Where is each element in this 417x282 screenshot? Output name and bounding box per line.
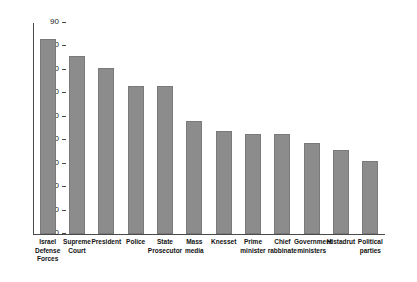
bar: [245, 134, 261, 234]
bar: [98, 68, 114, 234]
x-axis-label-line: parties: [353, 247, 388, 256]
x-axis-line: [33, 234, 385, 235]
x-axis-label-line: ministers: [294, 247, 329, 256]
x-axis-label-line: Forces: [30, 255, 65, 264]
bar: [362, 161, 378, 234]
x-axis-label: Politicalparties: [353, 238, 388, 255]
bar: [69, 56, 85, 234]
bar-chart: 0102030405060708090 IsraelDefenseForcesS…: [0, 0, 417, 282]
bar: [157, 86, 173, 234]
bar: [333, 150, 349, 234]
x-axis-labels: IsraelDefenseForcesSupremeCourtPresident…: [33, 238, 385, 282]
bar: [274, 134, 290, 234]
x-axis-label-line: media: [177, 247, 212, 256]
bar: [304, 143, 320, 234]
x-axis-label-line: Political: [353, 238, 388, 247]
bars-container: [33, 23, 385, 234]
x-axis-label-line: Court: [59, 247, 94, 256]
bar: [128, 86, 144, 234]
bar: [40, 39, 56, 234]
bar: [186, 121, 202, 234]
bar: [216, 131, 232, 234]
